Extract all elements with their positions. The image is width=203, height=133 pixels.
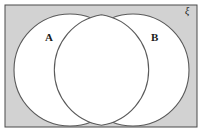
set-a-label: A — [45, 32, 53, 43]
universal-set-symbol: ξ — [185, 6, 189, 16]
venn-diagram-figure: A B ξ — [0, 0, 203, 133]
set-b-label: B — [151, 32, 159, 43]
venn-diagram-canvas — [0, 0, 203, 133]
